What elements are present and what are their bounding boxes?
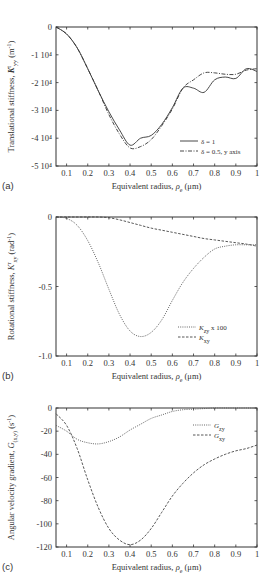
legend-label: Gxy <box>214 432 225 442</box>
x-axis-label: Equivalent radius, ρe (μm) <box>112 562 202 574</box>
x-axis-label: Equivalent radius, ρe (μm) <box>112 181 202 193</box>
panel-letter: (a) <box>2 180 14 191</box>
plot-frame <box>56 217 257 356</box>
series-line <box>56 217 257 337</box>
x-tick-label: 0.6 <box>167 549 178 559</box>
y-tick-label: 0 <box>48 22 52 32</box>
x-tick-label: 0.5 <box>146 168 157 178</box>
x-tick-label: 1 <box>255 549 259 559</box>
x-tick-label: 0.4 <box>125 358 136 368</box>
x-tick-label: 0.7 <box>188 358 199 368</box>
plot-frame <box>56 408 257 547</box>
x-tick-label: 0.2 <box>82 549 93 559</box>
y-tick-label: -100 <box>36 519 52 529</box>
x-tick-label: 0.3 <box>104 549 115 559</box>
x-tick-label: 0.3 <box>104 168 115 178</box>
x-tick-label: 0.8 <box>209 168 220 178</box>
legend-label: δ = 1 <box>201 138 216 146</box>
x-tick-label: 1 <box>255 168 259 178</box>
x-tick-label: 0.1 <box>61 549 72 559</box>
x-tick-label: 0.4 <box>125 168 136 178</box>
x-tick-label: 1 <box>255 358 259 368</box>
x-tick-label: 0.7 <box>188 549 199 559</box>
series-line <box>56 414 257 545</box>
y-tick-label: -40 <box>41 449 52 459</box>
legend-label: Kxy <box>198 334 210 344</box>
plot-frame <box>56 27 257 166</box>
y-axis-label: Translational stiffness, Ktyy (m-1) <box>6 40 18 152</box>
y-tick-label: -1.0 <box>39 351 52 361</box>
x-tick-label: 0.9 <box>231 549 242 559</box>
x-tick-label: 0.8 <box>209 358 220 368</box>
x-tick-label: 0.1 <box>61 358 72 368</box>
x-tick-label: 0.1 <box>61 168 72 178</box>
y-axis-label: Angular velocity gradient, G(x,y) (s-1) <box>6 415 19 541</box>
series-line <box>56 27 257 145</box>
x-tick-label: 0.7 <box>188 168 199 178</box>
legend-label: Gzy <box>214 422 225 432</box>
x-tick-label: 0.8 <box>209 549 220 559</box>
x-tick-label: 0.9 <box>231 168 242 178</box>
x-tick-label: 0.3 <box>104 358 115 368</box>
x-tick-label: 0.4 <box>125 549 136 559</box>
x-tick-label: 0.9 <box>231 358 242 368</box>
y-tick-label: -0.5 <box>39 282 52 292</box>
x-tick-label: 0.5 <box>146 549 157 559</box>
x-tick-label: 0.6 <box>167 168 178 178</box>
series-line <box>56 408 257 444</box>
x-tick-label: 0.6 <box>167 358 178 368</box>
y-tick-label: -80 <box>41 496 52 506</box>
y-tick-label: -60 <box>41 473 52 483</box>
panel-b: 0.10.20.30.40.50.60.70.80.910-0.5-1.0Kzy… <box>2 212 259 383</box>
y-tick-label: -2 10⁴ <box>31 78 52 88</box>
x-tick-label: 0.5 <box>146 358 157 368</box>
x-tick-label: 0.2 <box>82 168 93 178</box>
y-tick-label: 0 <box>48 403 52 413</box>
x-tick-label: 0.2 <box>82 358 93 368</box>
y-tick-label: -120 <box>36 542 52 552</box>
panel-c: 0.10.20.30.40.50.60.70.80.910-20-40-60-8… <box>2 403 259 574</box>
y-tick-label: -4 10⁴ <box>31 133 52 143</box>
series-line <box>56 217 257 246</box>
y-tick-label: 0 <box>48 212 52 222</box>
panel-a: 0.10.20.30.40.50.60.70.80.910-1 10⁴-2 10… <box>2 22 259 193</box>
panel-letter: (c) <box>2 561 13 572</box>
y-tick-label: -20 <box>41 426 52 436</box>
y-tick-label: -3 10⁴ <box>31 105 52 115</box>
figure: 0.10.20.30.40.50.60.70.80.910-1 10⁴-2 10… <box>0 0 274 584</box>
legend-label: Kzy x 100 <box>198 324 227 334</box>
legend-label: δ = 0.5, y axis <box>201 148 241 156</box>
y-tick-label: -1 10⁴ <box>31 50 52 60</box>
x-axis-label: Equivalent radius, ρe (μm) <box>112 371 202 383</box>
panel-letter: (b) <box>2 370 14 381</box>
y-tick-label: -5 10⁴ <box>31 161 52 171</box>
y-axis-label: Rotational stiffness, Krxy (rad-1) <box>6 233 18 340</box>
